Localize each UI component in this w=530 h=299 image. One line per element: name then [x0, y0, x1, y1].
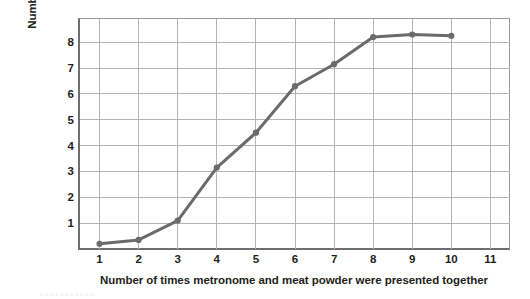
x-tick-label: 7 — [331, 253, 337, 265]
y-tick-label: 2 — [68, 191, 74, 203]
y-tick-label: 3 — [68, 165, 74, 177]
x-tick-label: 2 — [135, 253, 141, 265]
data-point-marker — [253, 130, 259, 136]
scan-bleed-through: a a a a a a a a a a a — [40, 291, 490, 298]
x-tick-label: 10 — [445, 253, 458, 265]
y-tick-label: 6 — [68, 88, 74, 100]
x-tick-label: 6 — [292, 253, 298, 265]
x-tick-label: 8 — [370, 253, 376, 265]
x-tick-label: 11 — [484, 253, 496, 265]
x-tick-label: 3 — [175, 253, 181, 265]
data-series-line — [80, 19, 510, 249]
y-tick-label: 5 — [68, 114, 74, 126]
data-point-marker — [175, 217, 181, 223]
data-point-marker — [214, 165, 220, 171]
data-point-marker — [370, 34, 376, 40]
data-point-marker — [96, 241, 102, 247]
data-point-marker — [136, 237, 142, 243]
chart-figure: Number of drops of saliva elicited by me… — [0, 0, 530, 299]
y-tick-label: 8 — [68, 36, 74, 48]
plot-area: 12345678 1234567891011 — [78, 18, 510, 250]
data-point-marker — [448, 33, 454, 39]
data-point-marker — [331, 61, 337, 67]
x-tick-label: 1 — [96, 253, 102, 265]
y-tick-label: 1 — [68, 217, 74, 229]
y-tick-label: 7 — [68, 62, 74, 74]
series-polyline — [100, 35, 452, 244]
x-axis-title: Number of times metronome and meat powde… — [78, 274, 510, 286]
y-tick-label: 4 — [68, 140, 74, 152]
x-tick-label: 4 — [214, 253, 220, 265]
y-axis-title: Number of drops of saliva elicited by me… — [22, 0, 58, 54]
data-point-marker — [409, 31, 415, 37]
data-point-marker — [292, 83, 298, 89]
y-axis-title-line-1: Number of drops of saliva elicited — [25, 0, 40, 29]
x-tick-label: 5 — [253, 253, 259, 265]
x-tick-label: 9 — [409, 253, 415, 265]
